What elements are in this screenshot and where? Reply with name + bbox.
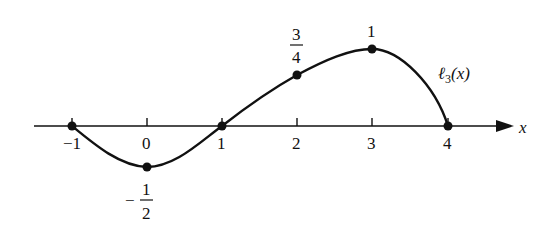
tick-label-m1: −1: [63, 134, 81, 153]
tick-label-4: 4: [443, 134, 452, 153]
lagrange-basis-chart: x −1 0 1 2 3 4 − 1 2 3 4 1 ℓ3(x): [0, 0, 538, 235]
neg-half-denominator: 2: [142, 204, 151, 223]
x-ticks: [72, 118, 448, 126]
three-quarter-denominator: 4: [292, 48, 301, 67]
neg-half-numerator: 1: [142, 180, 151, 199]
curve-label: ℓ3(x): [438, 64, 470, 86]
three-quarter-numerator: 3: [292, 25, 301, 44]
neg-sign: −: [125, 191, 135, 210]
one-label: 1: [367, 22, 376, 41]
tick-label-2: 2: [292, 134, 301, 153]
data-points: [68, 45, 453, 172]
x-axis-label: x: [518, 118, 527, 137]
tick-label-0: 0: [142, 134, 151, 153]
chart-svg: x −1 0 1 2 3 4 − 1 2 3 4 1 ℓ3(x): [0, 0, 538, 235]
tick-label-1: 1: [217, 134, 226, 153]
x-axis-arrow-icon: [496, 120, 514, 132]
l3-curve: [72, 49, 448, 167]
tick-label-3: 3: [367, 134, 376, 153]
